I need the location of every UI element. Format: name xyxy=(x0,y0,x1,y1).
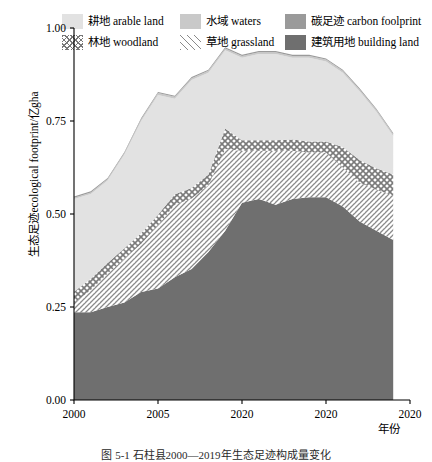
x-tick-label: 2000 xyxy=(63,408,86,420)
y-tick-label: 0.50 xyxy=(46,208,66,220)
x-tick-label: 2020 xyxy=(399,408,422,420)
y-axis-label: 生态足迹ecological footprint/亿gha xyxy=(25,49,41,299)
figure-caption: 图 5-1 石柱县2000—2019年生态足迹构成量变化 xyxy=(0,446,432,462)
plot-area: 0.000.250.500.751.0020002005202020202020… xyxy=(0,0,432,432)
x-tick-label: 2020 xyxy=(315,408,338,420)
y-tick-label: 0.25 xyxy=(46,301,66,313)
y-tick-label: 0.75 xyxy=(46,115,66,127)
stacked-area-chart: 0.000.250.500.751.0020002005202020202020 xyxy=(0,0,432,432)
x-tick-label: 2020 xyxy=(231,408,254,420)
x-axis-label: 年份 xyxy=(378,420,400,436)
x-tick-label: 2005 xyxy=(147,408,170,420)
y-tick-label: 0.00 xyxy=(46,394,66,406)
chart-layers xyxy=(74,47,393,400)
y-tick-label: 1.00 xyxy=(46,22,66,34)
